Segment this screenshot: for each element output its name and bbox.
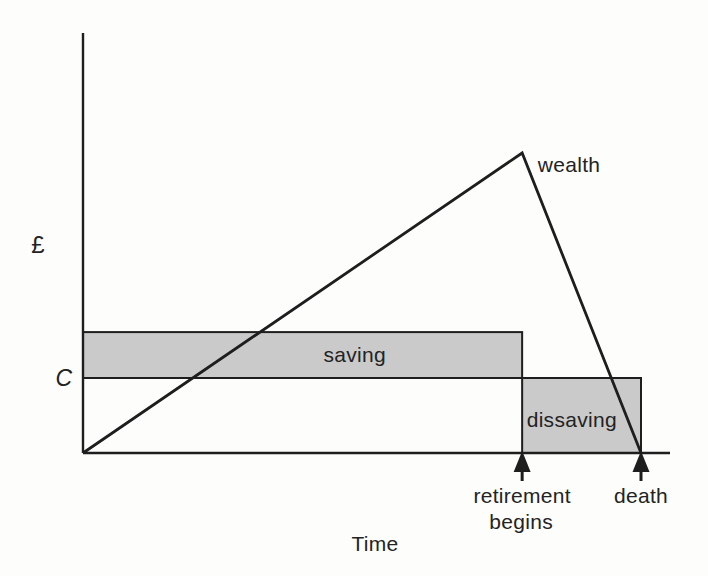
region-saving: [83, 332, 522, 378]
lifecycle-chart: £ C Time wealth saving dissaving retirem…: [0, 0, 708, 576]
saving-label: saving: [323, 343, 386, 366]
retirement-label-line2: begins: [489, 510, 553, 533]
x-axis-label: Time: [351, 532, 398, 555]
y-axis-label: £: [31, 231, 44, 258]
x-mark-1: death: [614, 451, 668, 507]
dissaving-label: dissaving: [527, 408, 617, 431]
retirement-label-line1: retirement: [473, 484, 571, 507]
lifecycle-savings-figure: £ C Time wealth saving dissaving retirem…: [0, 0, 708, 576]
consumption-level-label: C: [55, 365, 72, 391]
death-label: death: [614, 484, 668, 507]
x-mark-0: retirement begins: [473, 451, 571, 533]
wealth-label: wealth: [537, 153, 601, 176]
